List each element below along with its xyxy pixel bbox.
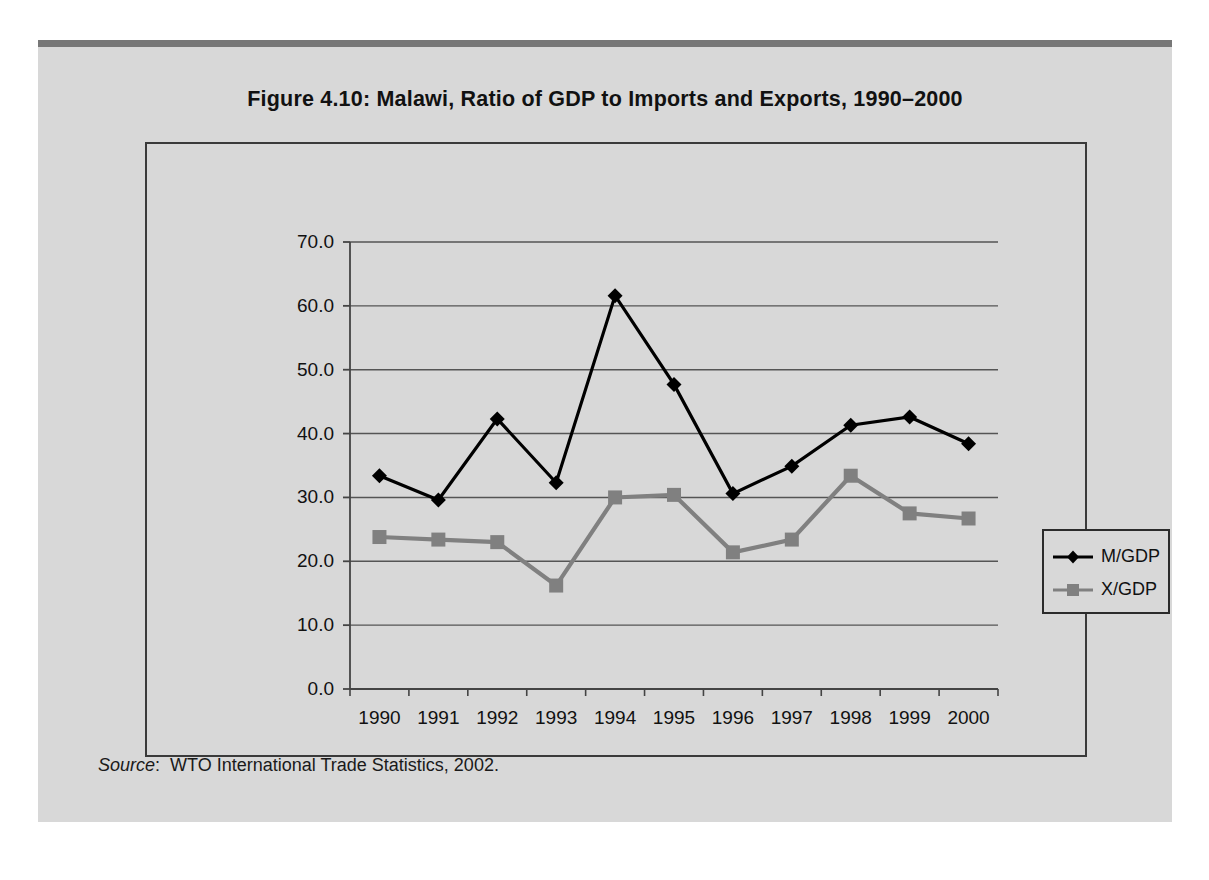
y-tick-label: 30.0 <box>297 486 334 508</box>
x-tick-label: 2000 <box>947 707 989 729</box>
y-tick-label: 40.0 <box>297 423 334 445</box>
source-text: WTO International Trade Statistics, 2002… <box>170 755 499 775</box>
data-point <box>726 545 740 559</box>
legend-item-x-gdp: X/GDP <box>1044 573 1168 606</box>
y-tick-label: 0.0 <box>308 678 334 700</box>
x-tick-label: 1993 <box>535 707 577 729</box>
x-tick-marks <box>350 689 998 696</box>
data-point <box>608 490 622 504</box>
data-point <box>431 533 445 547</box>
x-tick-label: 1990 <box>358 707 400 729</box>
data-point <box>962 512 976 526</box>
data-series-layer <box>372 288 976 592</box>
legend-label-x-gdp: X/GDP <box>1101 579 1157 600</box>
data-point <box>844 469 858 483</box>
x-tick-label: 1999 <box>888 707 930 729</box>
chart-frame: 0.010.020.030.040.050.060.070.0 19901991… <box>145 142 1087 757</box>
x-tick-label: 1992 <box>476 707 518 729</box>
page-title: Figure 4.10: Malawi, Ratio of GDP to Imp… <box>38 87 1172 112</box>
plot-area: 0.010.020.030.040.050.060.070.0 19901991… <box>350 242 998 689</box>
legend-swatch-square-icon <box>1053 582 1093 598</box>
data-point <box>372 530 386 544</box>
x-tick-label: 1997 <box>771 707 813 729</box>
data-point <box>372 468 387 483</box>
x-tick-label: 1998 <box>830 707 872 729</box>
data-point <box>490 535 504 549</box>
legend-swatch-diamond-icon <box>1053 549 1093 565</box>
legend-item-m-gdp: M/GDP <box>1044 540 1168 573</box>
y-tick-label: 20.0 <box>297 550 334 572</box>
data-point <box>667 488 681 502</box>
x-tick-label: 1995 <box>653 707 695 729</box>
y-tick-marks <box>343 242 350 689</box>
x-tick-label: 1991 <box>417 707 459 729</box>
data-point <box>785 533 799 547</box>
data-point <box>549 579 563 593</box>
figure-page: Figure 4.10: Malawi, Ratio of GDP to Imp… <box>0 0 1209 880</box>
y-tick-label: 10.0 <box>297 614 334 636</box>
x-tick-label: 1996 <box>712 707 754 729</box>
source-separator: : <box>155 755 160 775</box>
gridlines <box>350 242 998 625</box>
series-line-m-gdp <box>379 296 968 500</box>
legend-label-m-gdp: M/GDP <box>1101 546 1160 567</box>
y-tick-label: 60.0 <box>297 295 334 317</box>
source-keyword: Source <box>98 755 155 775</box>
y-tick-label: 50.0 <box>297 359 334 381</box>
x-tick-label: 1994 <box>594 707 636 729</box>
figure-panel: Figure 4.10: Malawi, Ratio of GDP to Imp… <box>38 40 1172 822</box>
axis-lines <box>350 242 998 689</box>
source-note: Source: WTO International Trade Statisti… <box>98 755 499 776</box>
chart-legend: M/GDP X/GDP <box>1042 529 1170 614</box>
data-point <box>903 506 917 520</box>
data-point <box>725 486 740 501</box>
y-tick-label: 70.0 <box>297 231 334 253</box>
line-chart-svg <box>350 242 998 689</box>
data-point <box>902 409 917 424</box>
data-point <box>961 436 976 451</box>
